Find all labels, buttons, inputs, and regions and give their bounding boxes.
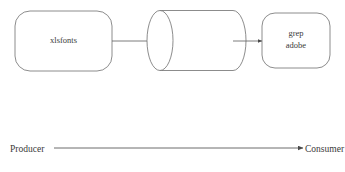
producer-node: xlsfonts (15, 11, 112, 71)
consumer-node: grep adobe (262, 13, 330, 68)
consumer-node-label-line2: adobe (286, 40, 307, 50)
pipeline-diagram: xlsfonts grep adobe Producer Consumer (0, 0, 345, 172)
figure-caption (8, 164, 288, 172)
pipe-node-cap (147, 11, 173, 71)
consumer-node-label-line1: grep (288, 28, 303, 38)
pipe-node (147, 11, 246, 71)
producer-node-label: xlsfonts (50, 35, 77, 45)
figure-canvas: xlsfonts grep adobe Producer Consumer (0, 0, 345, 172)
axis-label-consumer: Consumer (305, 144, 345, 154)
axis-label-producer: Producer (10, 144, 45, 154)
producer-consumer-axis: Producer Consumer (10, 144, 345, 154)
